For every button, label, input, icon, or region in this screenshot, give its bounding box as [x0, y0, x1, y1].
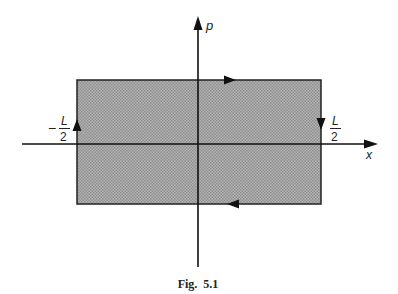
right-bound-numerator: L: [332, 114, 339, 128]
phase-space-region: [77, 80, 321, 204]
left-bound-numerator: L: [61, 114, 68, 128]
left-bound-label: − L 2: [48, 114, 70, 144]
figure-caption: Fig. 5.1: [178, 277, 219, 291]
p-axis-arrowhead-icon: [194, 16, 203, 30]
x-axis-label: x: [365, 148, 373, 162]
p-axis-label: p: [205, 18, 213, 33]
right-bound-denominator: 2: [331, 130, 338, 144]
phase-space-diagram: p x − L 2 L 2 Fig. 5.1: [0, 0, 398, 294]
left-bound-sign: −: [48, 120, 56, 136]
left-bound-denominator: 2: [60, 130, 67, 144]
right-bound-label: L 2: [330, 114, 341, 144]
